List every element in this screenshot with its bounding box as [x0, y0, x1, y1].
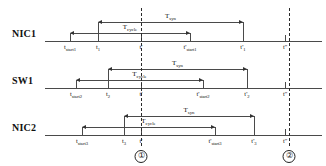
span-stem-start-t-syn-nic1 — [98, 22, 99, 41]
span-line-t-syn-sw1 — [108, 69, 247, 70]
row-label-sw1: SW1 — [12, 75, 33, 86]
span-stem-start-t-cycle-nic2 — [82, 127, 83, 135]
span-label-t-cycle-nic1: Tcycle — [123, 23, 137, 32]
span-stem-end-t-cycle-nic1 — [190, 33, 191, 41]
span-label-t-syn-sw1: Tsyn — [172, 59, 183, 68]
tick-label-t-start1-nic1: tstart1 — [64, 43, 76, 52]
tick-t-double-prime-sw1 — [285, 82, 286, 88]
span-line-t-syn-nic1 — [98, 22, 243, 23]
tick-label-t-double-prime-sw1: t'' — [283, 90, 287, 97]
tick-t-double-prime-nic2 — [285, 129, 286, 135]
span-stem-end-t-cycle-sw1 — [203, 80, 204, 88]
span-stem-end-t-syn-sw1 — [247, 69, 248, 88]
span-label-t-syn-nic2: Tsyn — [184, 106, 195, 115]
tick-label-t-2-sw1: t2 — [106, 90, 110, 99]
span-line-t-cycle-nic1 — [70, 33, 190, 34]
row-label-nic1: NIC1 — [12, 28, 36, 39]
circled-marker-1: ① — [135, 150, 148, 163]
tick-label-t-prime-1-nic1: t'1 — [240, 43, 245, 52]
row-label-nic2: NIC2 — [12, 122, 36, 133]
timeline-axis-nic2 — [45, 135, 322, 136]
span-stem-start-t-syn-nic2 — [124, 116, 125, 135]
dashed-line-t-prime — [141, 8, 142, 146]
circled-marker-2: ② — [283, 150, 296, 163]
span-stem-start-t-syn-sw1 — [108, 69, 109, 88]
dashed-line-t-double-prime — [289, 8, 290, 146]
tick-label-t-double-prime-nic1: t'' — [283, 43, 287, 50]
timing-diagram: NIC1tstart1t1t't'start1t'1t''TsynTcycleS… — [0, 0, 326, 166]
span-stem-end-t-syn-nic2 — [254, 116, 255, 135]
tick-label-t-prime-start3-nic2: t'start3 — [208, 137, 221, 146]
tick-label-t-double-prime-nic2: t'' — [283, 137, 287, 144]
tick-label-t-prime-3-nic2: t'3 — [251, 137, 256, 146]
tick-label-t-start2-sw1: tstart2 — [70, 90, 82, 99]
tick-label-t-prime-start1-nic1: t'start1 — [183, 43, 196, 52]
span-stem-start-t-cycle-nic1 — [70, 33, 71, 41]
tick-label-t-1-nic1: t1 — [96, 43, 100, 52]
tick-label-t-start3-nic2: tstart3 — [76, 137, 88, 146]
span-label-t-cycle-sw1: Tcycle — [132, 70, 146, 79]
tick-label-t-3-nic2: t3 — [122, 137, 126, 146]
span-line-t-cycle-nic2 — [82, 127, 215, 128]
span-stem-end-t-cycle-nic2 — [215, 127, 216, 135]
tick-label-t-prime-start2-sw1: t'start2 — [196, 90, 209, 99]
span-stem-start-t-cycle-sw1 — [76, 80, 77, 88]
timeline-axis-nic1 — [45, 41, 322, 42]
span-label-t-cycle-nic2: Tcycle — [141, 117, 155, 126]
span-line-t-cycle-sw1 — [76, 80, 203, 81]
span-label-t-syn-nic1: Tsyn — [165, 12, 176, 21]
timeline-axis-sw1 — [45, 88, 322, 89]
tick-t-double-prime-nic1 — [285, 35, 286, 41]
tick-label-t-prime-2-sw1: t'2 — [244, 90, 249, 99]
span-stem-end-t-syn-nic1 — [243, 22, 244, 41]
